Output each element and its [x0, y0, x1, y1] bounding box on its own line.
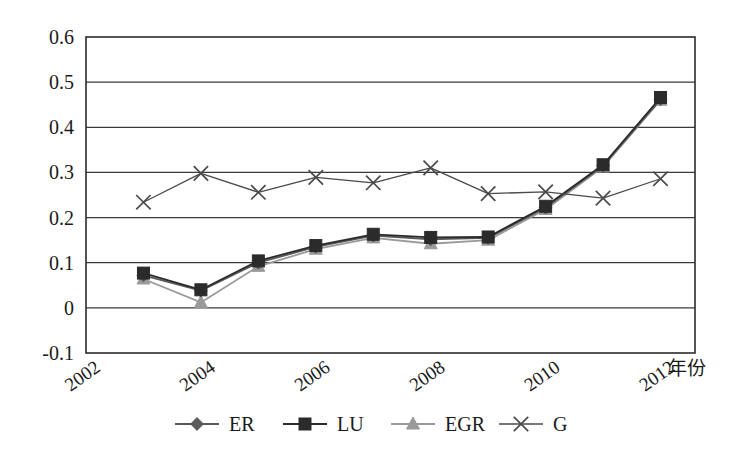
series-line-lu: [143, 97, 660, 289]
marker-square: [137, 267, 149, 279]
y-axis-tick-label: 0: [64, 297, 74, 319]
x-axis-tick-label: 2008: [405, 356, 448, 395]
legend-label-er: ER: [229, 413, 255, 435]
legend-label-egr: EGR: [445, 413, 486, 435]
y-axis-tick-label: 0.4: [49, 116, 74, 138]
x-axis-tick-label: 2010: [520, 356, 563, 395]
x-axis-tick-labels: 200220042006200820102012: [61, 356, 679, 395]
x-axis-title: 年份: [668, 358, 706, 379]
series-lu: [137, 91, 666, 295]
marker-triangle: [407, 417, 420, 429]
marker-square: [299, 418, 311, 430]
marker-square: [367, 228, 379, 240]
legend-item-g[interactable]: G: [499, 413, 567, 435]
marker-cross: [194, 166, 208, 180]
y-axis-tick-label: 0.2: [49, 207, 74, 229]
series-egr: [137, 93, 667, 307]
y-axis-tick-label: -0.1: [42, 342, 74, 364]
series-line-er: [143, 99, 660, 290]
series-line-egr: [143, 100, 660, 302]
y-axis-tick-label: 0.5: [49, 71, 74, 93]
y-axis-tick-label: 0.6: [49, 26, 74, 48]
marker-cross: [251, 185, 265, 199]
marker-square: [425, 231, 437, 243]
marker-cross: [136, 195, 150, 209]
legend: ERLUEGRG: [175, 413, 567, 435]
marker-square: [597, 159, 609, 171]
chart-figure: -0.100.10.20.30.40.50.6 2002200420062008…: [0, 0, 749, 463]
legend-item-egr[interactable]: EGR: [391, 413, 486, 435]
y-axis-tick-labels: -0.100.10.20.30.40.50.6: [42, 26, 74, 364]
x-axis-tick-label: 2004: [176, 356, 220, 395]
legend-item-er[interactable]: ER: [175, 413, 255, 435]
legend-label-g: G: [553, 413, 567, 435]
marker-square: [252, 255, 264, 267]
y-axis-tick-label: 0.1: [49, 252, 74, 274]
y-axis-tick-label: 0.3: [49, 161, 74, 183]
x-axis-tick-label: 2006: [290, 356, 333, 395]
marker-square: [310, 240, 322, 252]
series-er: [137, 93, 667, 297]
marker-square: [655, 91, 667, 103]
marker-cross: [653, 172, 667, 186]
series-g: [136, 161, 667, 210]
series-group: [136, 91, 667, 307]
gridlines-group: [86, 82, 695, 308]
marker-square: [195, 284, 207, 296]
line-chart-svg: -0.100.10.20.30.40.50.6 2002200420062008…: [0, 0, 749, 463]
marker-diamond: [191, 418, 204, 431]
plot-area-frame: [86, 37, 695, 353]
marker-square: [482, 231, 494, 243]
legend-item-lu[interactable]: LU: [283, 413, 364, 435]
legend-label-lu: LU: [337, 413, 364, 435]
marker-square: [540, 200, 552, 212]
